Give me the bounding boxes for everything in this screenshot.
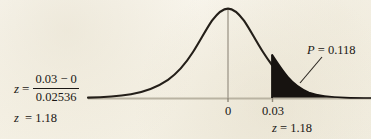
- probability-equals-sign: =: [318, 43, 325, 57]
- axis-tick-label-zero: 0: [225, 105, 231, 118]
- probability-symbol: P: [307, 43, 315, 57]
- axis-z-equals-sign: =: [280, 121, 287, 135]
- axis-tick-label-cutoff: 0.03: [262, 105, 284, 118]
- normal-distribution-figure: z = 0.03 − 0 0.02536 z = 1.18: [0, 0, 371, 139]
- axis-z-value-label: z = 1.18: [272, 122, 312, 135]
- axis-z-value: 1.18: [290, 121, 312, 135]
- probability-annotation: P = 0.118: [307, 44, 356, 57]
- bell-curve: [88, 9, 272, 98]
- probability-value: 0.118: [328, 43, 356, 57]
- axis-z-variable: z: [272, 121, 277, 135]
- annotation-leader-line: [300, 57, 322, 83]
- distribution-plot: [0, 0, 371, 139]
